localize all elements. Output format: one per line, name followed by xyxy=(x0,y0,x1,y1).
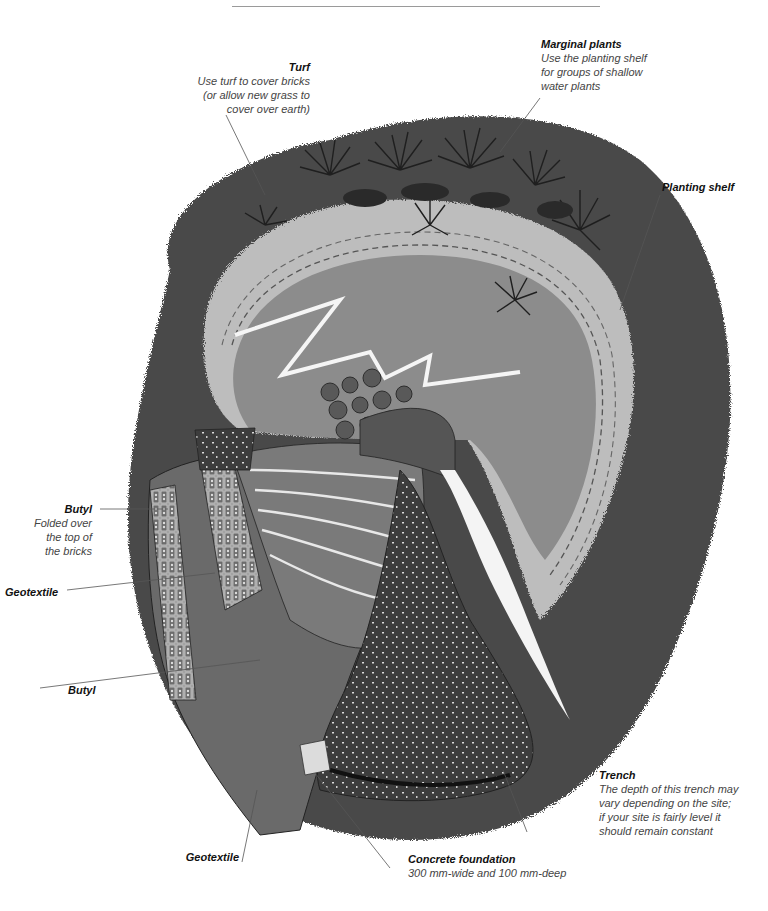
label-butyl-top: Butyl Folded over the top of the bricks xyxy=(0,502,92,558)
label-marginal-plants: Marginal plants Use the planting shelf f… xyxy=(541,37,741,93)
label-trench: Trench The depth of this trench may vary… xyxy=(599,768,768,838)
turf-title: Turf xyxy=(110,60,310,74)
label-butyl-lower: Butyl xyxy=(68,683,128,697)
label-concrete-foundation: Concrete foundation 300 mm-wide and 100 … xyxy=(408,852,628,880)
label-geotextile-bottom: Geotextile xyxy=(150,850,239,864)
label-turf: Turf Use turf to cover bricks (or allow … xyxy=(110,60,310,116)
label-planting-shelf: Planting shelf xyxy=(662,180,768,194)
label-geotextile-left: Geotextile xyxy=(5,585,95,599)
